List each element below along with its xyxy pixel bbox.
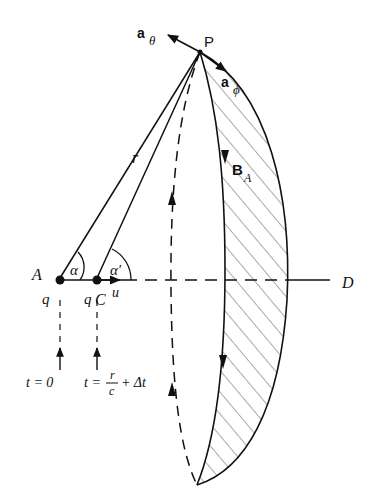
r-label: r xyxy=(132,149,139,166)
r-line-from-A xyxy=(60,52,200,278)
alpha-arc xyxy=(78,252,84,280)
B-A-subscript: A xyxy=(243,171,252,185)
a-theta-vector xyxy=(168,35,200,52)
charge-point-C xyxy=(93,276,102,285)
dashed-back-arc xyxy=(171,52,200,485)
hatched-region xyxy=(190,40,300,490)
retarded-field-diagram: a θ P a ϕ B A r A α α′ q q C u D t = 0 t… xyxy=(0,0,373,497)
time-t1-numerator: r xyxy=(110,368,115,382)
up-arrow-dashed xyxy=(168,191,176,205)
time-t1-suffix: + Δt xyxy=(121,375,147,390)
point-C-label: C xyxy=(95,291,106,308)
charge-point-A xyxy=(56,276,65,285)
alpha-prime-label: α′ xyxy=(110,262,122,278)
velocity-u-label: u xyxy=(112,285,119,300)
r-line-from-C xyxy=(97,52,200,278)
point-P-label: P xyxy=(204,33,214,50)
charge-q-A-label: q xyxy=(42,291,50,307)
a-phi-subscript: ϕ xyxy=(233,82,240,97)
B-A-label: B xyxy=(232,161,243,178)
time-t1-prefix: t = xyxy=(84,375,101,390)
a-theta-label: a xyxy=(137,25,145,41)
time-t1-denominator: c xyxy=(109,384,115,398)
a-theta-subscript: θ xyxy=(149,33,156,48)
time-t0-label: t = 0 xyxy=(26,375,53,390)
a-phi-label: a xyxy=(221,74,229,90)
point-P xyxy=(198,50,203,55)
alpha-label: α xyxy=(70,262,79,278)
point-D-label: D xyxy=(341,274,354,291)
charge-q-C-label: q xyxy=(84,291,92,307)
point-A-label: A xyxy=(31,266,42,283)
